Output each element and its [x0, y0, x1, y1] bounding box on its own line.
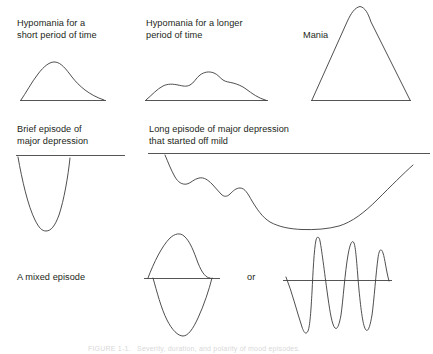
panel-hypomania-short-graphic: [20, 62, 106, 101]
mania-curve: [312, 7, 410, 101]
hypomania-short-curve: [21, 62, 104, 100]
mixed-oscillation-curve: [286, 237, 389, 333]
mood-episode-figure: Hypomania for a short period of time Hyp…: [0, 0, 433, 354]
label-long-depression-line1: Long episode of major depression: [149, 124, 289, 136]
label-hypomania-short-line1: Hypomania for a: [17, 18, 85, 30]
panel-long-depression-graphic: [148, 154, 430, 230]
long-depression-curve: [165, 155, 413, 230]
mixed-lens-upper-curve: [148, 234, 210, 278]
hypomania-long-curve: [146, 72, 266, 100]
label-brief-depression-line1: Brief episode of: [17, 124, 82, 136]
label-long-depression-line2: that started off mild: [149, 136, 228, 148]
mixed-lens-lower-curve: [153, 278, 212, 336]
label-mixed-or-connector: or: [247, 272, 255, 284]
panel-brief-depression-graphic: [16, 156, 125, 232]
label-hypomania-long-line1: Hypomania for a longer: [146, 18, 243, 30]
figure-drawing-canvas: [0, 0, 433, 354]
label-mania: Mania: [303, 30, 328, 42]
panel-mixed-lens-graphic: [144, 234, 220, 336]
figure-caption: FIGURE 1-1. Severity, duration, and pola…: [88, 345, 300, 352]
label-hypomania-long-line2: period of time: [146, 30, 202, 42]
panel-hypomania-long-graphic: [145, 72, 268, 101]
label-hypomania-short-line2: short period of time: [17, 30, 97, 42]
panel-mixed-oscillation-graphic: [283, 237, 392, 333]
panel-mania-graphic: [311, 7, 411, 101]
brief-depression-curve: [18, 157, 70, 231]
label-mixed-episode: A mixed episode: [17, 272, 85, 284]
label-brief-depression-line2: major depression: [17, 136, 88, 148]
